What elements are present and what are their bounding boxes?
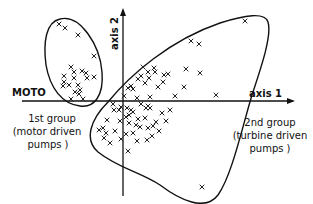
- data-point-x-mark: [57, 22, 62, 27]
- group1-label-line3: pumps ): [27, 139, 68, 150]
- group2-label: 2nd group (turbine driven pumps ): [233, 117, 308, 154]
- data-point-x-mark: [112, 108, 117, 113]
- group2-label-line1: 2nd group: [244, 117, 295, 128]
- data-point-x-mark: [162, 73, 167, 78]
- data-point-x-mark: [85, 76, 90, 81]
- data-point-x-mark: [200, 185, 205, 190]
- data-point-x-mark: [151, 124, 156, 129]
- data-point-x-mark: [136, 77, 141, 82]
- data-point-x-mark: [124, 132, 129, 137]
- data-point-x-mark: [139, 102, 144, 107]
- data-point-x-mark: [146, 70, 151, 75]
- group1-label-line1: 1st group: [28, 113, 76, 124]
- data-point-x-mark: [76, 33, 81, 38]
- axis-1-label: axis 1: [249, 88, 282, 99]
- data-point-x-mark: [113, 129, 118, 134]
- data-point-x-mark: [145, 138, 150, 143]
- data-point-x-mark: [135, 96, 140, 101]
- data-point-x-mark: [78, 88, 83, 93]
- data-point-x-mark: [153, 70, 158, 75]
- data-point-x-mark: [156, 85, 161, 90]
- data-point-x-mark: [131, 131, 136, 136]
- data-point-x-mark: [197, 42, 202, 47]
- data-point-x-mark: [135, 139, 140, 144]
- group1-label: 1st group (motor driven pumps ): [13, 113, 82, 150]
- data-point-x-mark: [76, 83, 81, 88]
- data-point-x-mark: [160, 111, 165, 116]
- data-point-x-mark: [146, 126, 151, 131]
- data-point-x-mark: [161, 80, 166, 85]
- data-point-x-mark: [136, 117, 141, 122]
- data-point-x-mark: [63, 26, 68, 31]
- data-point-x-mark: [150, 134, 155, 139]
- data-point-x-mark: [157, 129, 162, 134]
- data-point-x-mark: [166, 72, 171, 77]
- data-point-x-mark: [111, 102, 116, 107]
- data-point-x-mark: [152, 66, 157, 71]
- data-point-x-mark: [105, 118, 110, 123]
- data-point-x-mark: [72, 76, 77, 81]
- scatter-diagram: MOTO axis 1 axis 2 1st group (motor driv…: [0, 0, 313, 204]
- data-point-x-mark: [148, 95, 153, 100]
- data-point-x-mark: [147, 76, 152, 81]
- data-point-x-mark: [69, 65, 74, 70]
- data-point-x-mark: [144, 106, 149, 111]
- data-point-x-mark: [182, 85, 187, 90]
- data-point-x-mark: [214, 93, 219, 98]
- data-point-x-mark: [62, 74, 67, 79]
- data-point-x-mark: [104, 131, 109, 136]
- data-point-x-mark: [72, 70, 77, 75]
- data-point-x-mark: [148, 106, 153, 111]
- data-point-x-mark: [243, 19, 248, 24]
- moto-label: MOTO: [12, 87, 46, 98]
- data-point-x-mark: [92, 54, 97, 59]
- data-point-x-mark: [67, 83, 72, 88]
- data-point-x-mark: [141, 65, 146, 70]
- data-point-x-mark: [168, 108, 173, 113]
- data-point-x-mark: [118, 119, 123, 124]
- data-point-x-mark: [184, 67, 189, 72]
- data-point-x-mark: [189, 39, 194, 44]
- group2-label-line2: (turbine driven: [233, 130, 308, 141]
- group1-points: [57, 22, 97, 102]
- data-point-x-mark: [62, 80, 67, 85]
- data-point-x-mark: [127, 121, 132, 126]
- data-point-x-mark: [108, 141, 113, 146]
- group1-label-line2: (motor driven: [13, 126, 82, 137]
- data-point-x-mark: [173, 94, 178, 99]
- data-point-x-mark: [61, 84, 66, 89]
- group2-label-line3: pumps ): [249, 143, 290, 154]
- data-point-x-mark: [92, 75, 97, 80]
- axis-2-label: axis 2: [109, 17, 120, 50]
- data-point-x-mark: [102, 136, 107, 141]
- data-point-x-mark: [198, 71, 203, 76]
- data-point-x-mark: [143, 116, 148, 121]
- data-point-x-mark: [164, 119, 169, 124]
- data-point-x-mark: [126, 149, 131, 154]
- data-point-x-mark: [143, 81, 148, 86]
- data-point-x-mark: [154, 120, 159, 125]
